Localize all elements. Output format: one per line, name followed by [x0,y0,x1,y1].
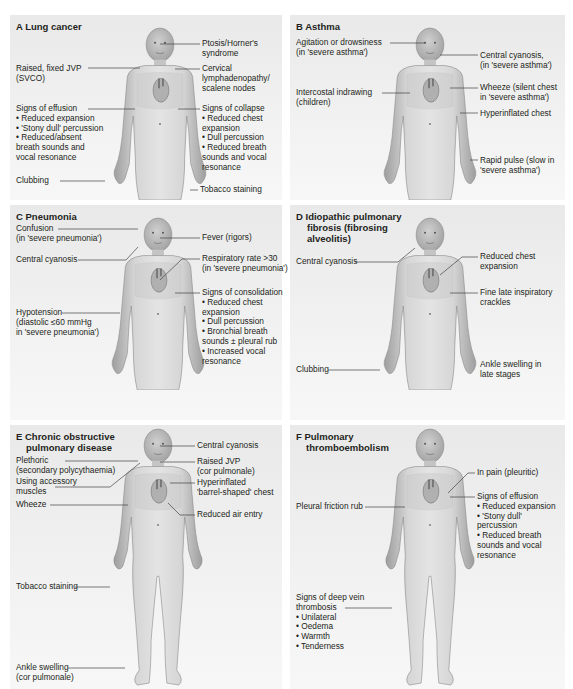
panel-title: E Chronic obstructive pulmonary disease [16,431,115,453]
label-reduced-expansion: Reduced chest expansion [480,252,535,272]
label-consolidation: Signs of consolidation • Reduced chest e… [202,288,283,366]
panel-pulmonary-thromboembolism: F Pulmonary thromboembolism In pain (ple… [290,425,565,689]
label-ankle-swelling: Ankle swelling in late stages [480,360,541,380]
label-jvp: Raised JVP (cor pulmonale) [197,457,255,477]
label-agitation: Agitation or drowsiness (in 'severe asth… [296,38,382,58]
panel-pneumonia: C Pneumonia Confusion (in 'severe pneumo… [10,205,282,420]
label-cyanosis: Central cyanosis, (in 'severe asthma') [480,51,552,71]
label-ankle-swelling: Ankle swelling (cor pulmonale) [16,663,74,683]
label-intercostal: Intercostal indrawing (children) [296,88,372,108]
body-figure-icon [105,27,215,200]
label-tobacco: Tobacco staining [16,582,78,592]
label-cyanosis: Central cyanosis [16,255,77,265]
panel-lung-cancer: A Lung cancer Ptosis/Horner's syndrome R… [10,15,282,200]
label-air-entry: Reduced air entry [197,510,263,520]
label-jvp: Raised, fixed JVP (SVCO) [16,64,81,84]
label-pleuritic-pain: In pain (pleuritic) [477,468,538,478]
label-clubbing: Clubbing [16,176,49,186]
panel-title: A Lung cancer [16,21,82,32]
label-respiratory-rate: Respiratory rate >30 (in 'severe pneumon… [202,254,288,274]
body-figure-icon [375,217,485,390]
label-hypotension: Hypotension (diastolic ≤60 mmHg in 'seve… [16,308,99,337]
label-confusion: Confusion (in 'severe pneumonia') [16,224,102,244]
label-hyperinflated: Hyperinflated 'barrel-shaped' chest [197,478,274,498]
body-figure-icon [375,27,485,200]
label-fever: Fever (rigors) [202,233,252,243]
panel-title: C Pneumonia [16,211,77,222]
body-figure-icon [103,217,213,390]
label-tobacco: Tobacco staining [200,185,262,195]
label-wheeze: Wheeze (silent chest in 'severe asthma') [480,83,557,103]
label-hyperinflated: Hyperinflated chest [480,109,551,119]
panel-title: B Asthma [296,21,340,32]
label-effusion: Signs of effusion • Reduced expansion • … [16,104,103,163]
label-wheeze: Wheeze [16,500,46,510]
label-cyanosis: Central cyanosis [197,441,258,451]
label-pulse: Rapid pulse (slow in 'severe asthma') [480,156,554,176]
label-accessory-muscles: Using accessory muscles [16,477,77,497]
label-plethoric: Plethoric (secondary polycythaemia) [16,456,115,476]
label-effusion: Signs of effusion • Reduced expansion • … [477,492,556,561]
label-ptosis: Ptosis/Horner's syndrome [202,39,258,59]
label-cyanosis: Central cyanosis [296,257,357,267]
label-clubbing: Clubbing [296,365,329,375]
panel-copd: E Chronic obstructive pulmonary disease … [10,425,282,689]
label-dvt: Signs of deep vein thrombosis • Unilater… [296,593,364,652]
panel-asthma: B Asthma Agitation or drowsiness (in 'se… [290,15,565,200]
panel-pulmonary-fibrosis: D Idiopathic pulmonary fibrosis (fibrosi… [290,205,565,420]
label-friction-rub: Pleural friction rub [296,502,363,512]
label-crackles: Fine late inspiratory crackles [480,288,552,308]
label-collapse: Signs of collapse • Reduced chest expans… [202,104,267,173]
label-cervical: Cervical lymphadenopathy/ scalene nodes [202,64,270,93]
body-figure-icon [375,428,485,689]
